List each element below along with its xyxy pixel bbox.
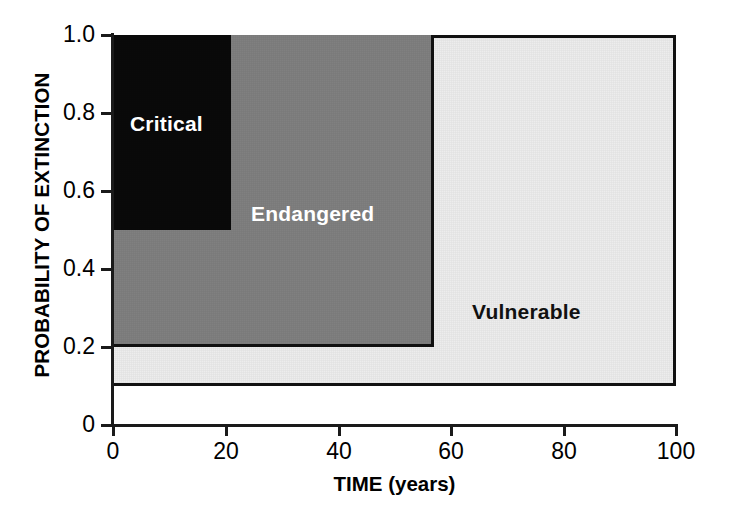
region-label-vulnerable: Vulnerable <box>472 300 581 324</box>
y-axis-line <box>111 33 114 427</box>
x-tick-mark-20 <box>225 425 228 436</box>
region-label-critical: Critical <box>130 112 203 136</box>
region-label-endangered: Endangered <box>251 202 374 226</box>
y-axis-title: PROBABILITY OF EXTINCTION <box>30 35 54 415</box>
y-tick-label-0_2: 0.2 <box>33 335 95 358</box>
x-tick-label-80: 80 <box>529 440 599 463</box>
x-axis-line <box>111 424 678 427</box>
x-axis-title: TIME (years) <box>113 472 676 496</box>
x-tick-mark-100 <box>675 425 678 436</box>
x-tick-label-100: 100 <box>641 440 711 463</box>
x-tick-label-20: 20 <box>191 440 261 463</box>
x-tick-label-60: 60 <box>416 440 486 463</box>
y-tick-label-0: 0 <box>33 413 95 436</box>
x-tick-mark-60 <box>450 425 453 436</box>
x-tick-label-0: 0 <box>78 440 148 463</box>
y-tick-label-0_6: 0.6 <box>33 179 95 202</box>
extinction-risk-chart: PROBABILITY OF EXTINCTION 1.0 0.8 0.6 0.… <box>0 0 729 513</box>
x-tick-label-40: 40 <box>304 440 374 463</box>
x-tick-mark-80 <box>563 425 566 436</box>
y-tick-label-0_4: 0.4 <box>33 257 95 280</box>
y-tick-label-0_8: 0.8 <box>33 101 95 124</box>
x-tick-mark-0 <box>112 425 115 436</box>
plot-area: Critical Endangered Vulnerable <box>113 35 676 425</box>
x-tick-mark-40 <box>338 425 341 436</box>
y-tick-label-1_0: 1.0 <box>33 23 95 46</box>
